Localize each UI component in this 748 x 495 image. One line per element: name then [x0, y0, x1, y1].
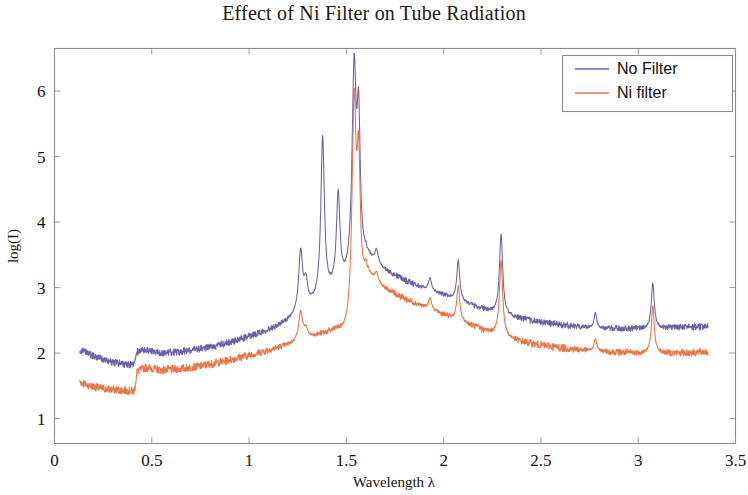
series-line-ni-filter: [80, 88, 708, 395]
x-tick-label-2: 1: [245, 451, 254, 470]
x-axis-title: Wavelength λ: [353, 474, 436, 490]
x-axis-tick-labels: 00.511.522.533.5: [50, 451, 746, 470]
chart-legend[interactable]: No FilterNi filter: [563, 56, 733, 112]
x-tick-label-4: 2: [439, 451, 448, 470]
y-tick-label-5: 6: [37, 82, 46, 101]
legend-label-no-filter: No Filter: [617, 60, 678, 77]
x-tick-label-1: 0.5: [141, 451, 162, 470]
y-axis-tick-labels: 123456: [37, 82, 46, 429]
legend-label-ni-filter: Ni filter: [617, 84, 667, 101]
y-tick-label-0: 1: [37, 410, 46, 429]
x-tick-label-7: 3.5: [725, 451, 746, 470]
y-tick-label-3: 4: [37, 213, 46, 232]
plot-canvas: 00.511.522.533.5 123456 Wavelength λ log…: [0, 0, 748, 495]
y-axis-title: log(I): [5, 229, 22, 263]
y-tick-label-1: 2: [37, 344, 46, 363]
y-tick-label-4: 5: [37, 148, 46, 167]
y-tick-label-2: 3: [37, 279, 46, 298]
x-tick-label-0: 0: [50, 451, 59, 470]
x-tick-label-6: 3: [634, 451, 643, 470]
chart-figure: Effect of Ni Filter on Tube Radiation 00…: [0, 0, 748, 495]
x-tick-label-5: 2.5: [530, 451, 551, 470]
x-tick-label-3: 1.5: [336, 451, 357, 470]
